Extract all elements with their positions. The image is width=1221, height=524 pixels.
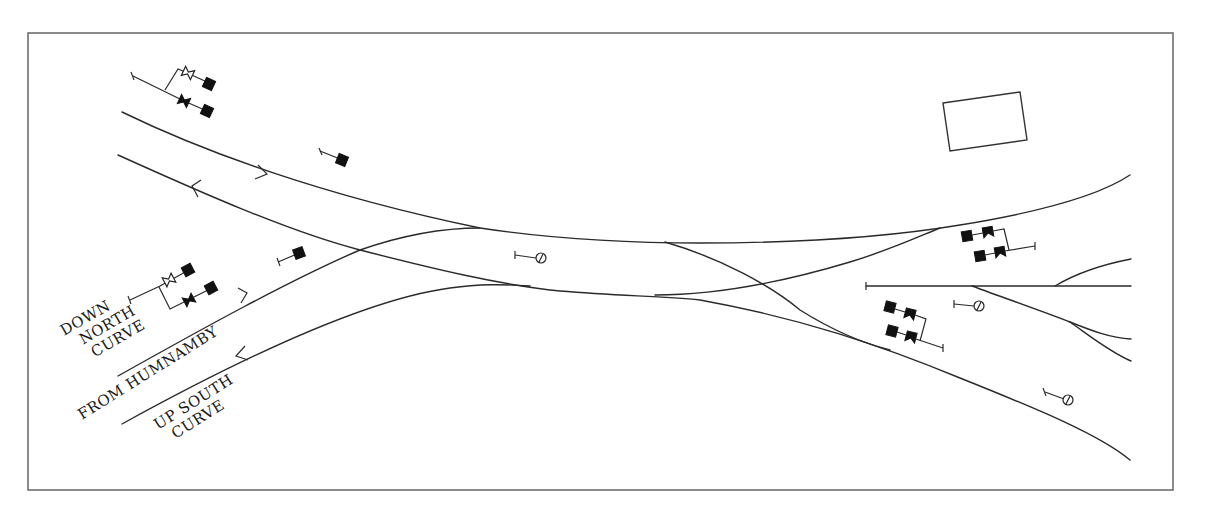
track-branch-fork-a [1070, 322, 1131, 339]
ground-disc-signal-center [515, 251, 546, 263]
track-branch-fork-b [1070, 322, 1131, 361]
track-branch-diagonal [972, 286, 1070, 322]
label-up-south-curve: UP SOUTH CURVE [151, 371, 246, 448]
signal-gantry-right-bottom [884, 301, 943, 352]
track-crossover-down [665, 242, 890, 350]
arrow-left-icon [192, 180, 201, 197]
track-branch-up [1055, 259, 1131, 286]
signal-single-top [319, 148, 349, 167]
building-outline [943, 92, 1027, 151]
arrow-left-icon [236, 346, 248, 360]
signal-gantry-top-left [131, 66, 216, 117]
track-crossover-up [655, 228, 940, 295]
signal-single-mid-left [277, 247, 305, 266]
ground-disc-signal-bottom-right [1043, 388, 1073, 405]
label-down-north-curve: DOWN NORTH CURVE [57, 286, 148, 369]
railway-track-diagram: DOWN NORTH CURVE FROM HUMNAMBY UP SOUTH … [0, 0, 1221, 524]
signal-gantry-mid-left [128, 263, 218, 309]
ground-disc-signal-right [954, 300, 984, 311]
arrow-right-icon [238, 288, 247, 303]
signal-gantry-right-top [961, 226, 1035, 262]
